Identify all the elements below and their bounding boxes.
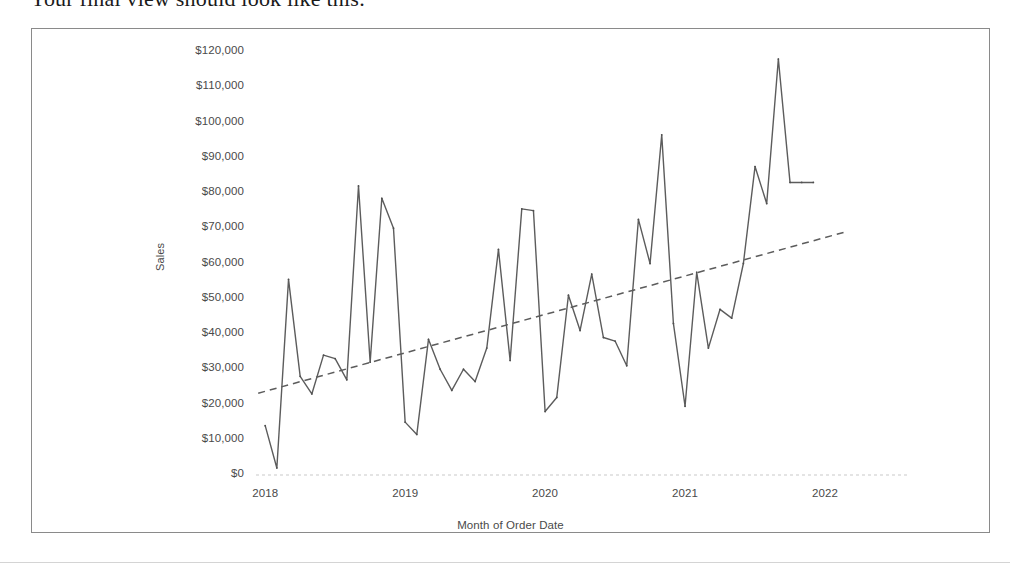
x-tick-2018: 2018 — [235, 487, 295, 499]
data-point — [638, 219, 640, 221]
sales-series-line — [265, 59, 813, 468]
data-point — [696, 271, 698, 273]
data-point — [323, 354, 325, 356]
data-point — [276, 467, 278, 469]
data-point — [428, 338, 430, 340]
data-point — [509, 360, 511, 362]
data-point — [614, 340, 616, 342]
trend-line — [258, 232, 846, 393]
x-tick-2020: 2020 — [515, 487, 575, 499]
data-point — [603, 337, 605, 339]
data-point — [812, 182, 814, 184]
data-point — [742, 263, 744, 265]
data-point — [754, 166, 756, 168]
data-point — [777, 58, 779, 60]
data-point — [393, 227, 395, 229]
data-point — [707, 347, 709, 349]
data-point — [358, 185, 360, 187]
data-point — [533, 210, 535, 212]
data-point — [381, 197, 383, 199]
data-point — [556, 397, 558, 399]
data-point — [463, 368, 465, 370]
sales-data-markers — [264, 58, 814, 469]
data-point — [544, 411, 546, 413]
data-point — [369, 361, 371, 363]
data-point — [474, 381, 476, 383]
data-point — [649, 263, 651, 265]
data-point — [673, 323, 675, 325]
data-point — [579, 330, 581, 332]
data-point — [568, 294, 570, 296]
data-point — [439, 368, 441, 370]
data-point — [416, 434, 418, 436]
data-point — [801, 182, 803, 184]
data-point — [451, 390, 453, 392]
sales-line-chart — [32, 29, 991, 534]
data-point — [661, 134, 663, 136]
data-point — [521, 208, 523, 210]
data-point — [299, 375, 301, 377]
x-tick-2021: 2021 — [655, 487, 715, 499]
data-point — [591, 273, 593, 275]
data-point — [264, 425, 266, 427]
data-point — [486, 347, 488, 349]
data-point — [498, 249, 500, 251]
data-point — [288, 278, 290, 280]
page-bottom-rule — [0, 562, 1010, 563]
data-point — [684, 405, 686, 407]
data-point — [346, 379, 348, 381]
data-point — [334, 358, 336, 360]
data-point — [789, 182, 791, 184]
chart-figure-frame: Sales $120,000$110,000$100,000$90,000$80… — [31, 28, 990, 533]
data-point — [626, 365, 628, 367]
data-point — [731, 317, 733, 319]
chart-plot-area: Sales $120,000$110,000$100,000$90,000$80… — [32, 29, 989, 532]
x-tick-2019: 2019 — [375, 487, 435, 499]
data-point — [404, 421, 406, 423]
x-tick-2022: 2022 — [795, 487, 855, 499]
x-axis-title: Month of Order Date — [32, 519, 989, 531]
data-point — [719, 308, 721, 310]
intro-text: Your final view should look like this: — [30, 0, 365, 12]
data-point — [766, 203, 768, 205]
data-point — [311, 393, 313, 395]
